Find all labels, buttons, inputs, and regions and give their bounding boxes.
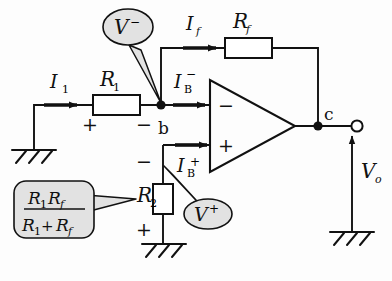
svg-text:I: I (176, 154, 185, 176)
svg-text:f: f (245, 23, 252, 36)
svg-text:I: I (173, 70, 182, 92)
ground-symbol-input (12, 150, 56, 163)
callout-r2-numerator-a-sub: 1 (40, 198, 47, 211)
callout-v-minus-superscript: − (130, 15, 140, 29)
svg-text:I: I (49, 70, 58, 92)
svg-text:B: B (184, 83, 192, 96)
callout-v-plus-superscript: + (209, 202, 219, 216)
label-resistor-r1: R 1 (99, 67, 120, 94)
svg-text:2: 2 (150, 197, 157, 210)
callout-r2-numerator-b: R (47, 188, 61, 208)
callout-r2-numerator-a: R (27, 188, 41, 208)
ground-symbol-output (330, 232, 374, 245)
callout-r2-denominator-a-sub: 1 (34, 225, 41, 238)
callout-v-minus-symbol: V (114, 15, 131, 39)
circuit-schematic-svg: V − V + R 1 R f R 1 + R f (0, 0, 392, 281)
label-output-voltage: V o (361, 159, 382, 186)
output-terminal-circle (351, 120, 362, 131)
callout-v-plus-symbol: V (194, 203, 210, 225)
label-bias-current-plus: I B + (176, 154, 200, 180)
resistor-rf-body (225, 38, 272, 58)
callout-r2-value: R 1 R f R 1 + R f (14, 181, 136, 238)
circuit-diagram-figure: V − V + R 1 R f R 1 + R f (0, 0, 392, 281)
label-current-if: I f (185, 12, 202, 38)
polarity-r2-minus: − (136, 150, 152, 172)
label-current-i1: I 1 (49, 70, 69, 96)
resistor-r1-body (93, 95, 140, 115)
svg-text:I: I (185, 12, 194, 34)
label-node-c: c (324, 104, 334, 124)
svg-text:−: − (186, 67, 196, 81)
callout-r2-denominator-a: R (21, 215, 35, 235)
svg-text:1: 1 (62, 83, 69, 96)
polarity-r1-minus: − (136, 113, 152, 135)
label-node-b: b (158, 118, 169, 138)
callout-v-plus: V + (164, 166, 232, 229)
svg-text:f: f (195, 25, 202, 38)
label-bias-current-minus: I B − (173, 67, 196, 96)
callout-r2-denominator-b: R (55, 215, 69, 235)
svg-text:+: + (190, 155, 200, 169)
polarity-r1-plus: + (82, 113, 98, 135)
svg-text:o: o (375, 173, 382, 186)
opamp-inverting-sign: − (218, 94, 234, 116)
label-resistor-rf: R f (232, 9, 252, 36)
ground-symbol-bias (142, 244, 186, 257)
callout-r2-denominator-plus: + (41, 217, 54, 235)
polarity-r2-plus: + (136, 218, 152, 240)
opamp-noninverting-sign: + (218, 134, 234, 156)
junction-dot-output (313, 121, 322, 130)
svg-text:1: 1 (113, 81, 120, 94)
